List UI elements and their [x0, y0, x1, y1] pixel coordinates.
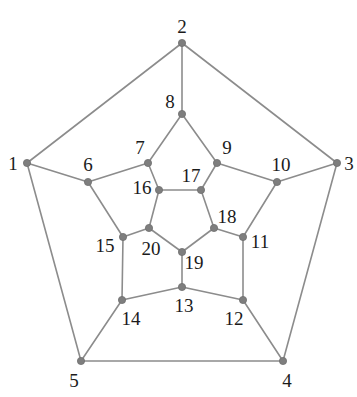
graph-vertex-5	[77, 357, 84, 364]
graph-vertex-20	[145, 224, 152, 231]
graph-vertex-9	[213, 159, 220, 166]
vertex-label-16: 16	[133, 178, 152, 197]
graph-vertex-6	[84, 178, 91, 185]
graph-vertex-4	[279, 357, 286, 364]
vertex-label-17: 17	[182, 166, 201, 185]
vertex-label-13: 13	[175, 296, 194, 315]
vertex-label-10: 10	[272, 155, 291, 174]
vertex-label-20: 20	[142, 239, 161, 258]
graph-canvas	[0, 0, 357, 397]
vertex-label-8: 8	[165, 92, 175, 111]
graph-edge-5-14	[81, 300, 122, 361]
graph-edge-1-6	[27, 163, 88, 182]
vertex-label-3: 3	[344, 154, 354, 173]
vertex-label-9: 9	[222, 138, 232, 157]
graph-edge-18-19	[182, 228, 214, 252]
graph-vertex-15	[119, 233, 126, 240]
graph-edge-3-4	[283, 163, 337, 361]
vertex-label-15: 15	[96, 236, 115, 255]
graph-vertex-13	[178, 283, 185, 290]
graph-edge-4-12	[243, 300, 283, 361]
graph-vertex-2	[178, 39, 185, 46]
vertex-label-6: 6	[83, 155, 93, 174]
graph-edge-14-15	[122, 237, 123, 300]
vertex-label-1: 1	[8, 154, 18, 173]
vertex-label-19: 19	[185, 253, 204, 272]
vertex-label-11: 11	[251, 232, 269, 251]
vertex-label-4: 4	[282, 371, 292, 390]
graph-edge-9-17	[201, 163, 217, 190]
vertex-label-5: 5	[69, 371, 79, 390]
graph-vertex-14	[118, 296, 125, 303]
graph-vertex-16	[155, 186, 162, 193]
vertex-label-18: 18	[218, 207, 237, 226]
graph-edge-8-9	[182, 114, 217, 163]
graph-vertex-7	[144, 159, 151, 166]
graph-vertex-10	[273, 178, 280, 185]
graph-edge-13-14	[122, 287, 182, 300]
graph-edge-9-10	[217, 163, 277, 182]
graph-vertex-11	[239, 233, 246, 240]
vertex-label-14: 14	[122, 309, 141, 328]
graph-edge-15-20	[123, 228, 149, 237]
graph-vertex-8	[178, 110, 185, 117]
graph-edge-15-6	[88, 182, 123, 237]
graph-edge-11-18	[214, 228, 243, 237]
graph-vertex-1	[23, 159, 30, 166]
graph-edge-5-1	[27, 163, 81, 361]
graph-vertex-3	[333, 159, 340, 166]
graph-edge-2-3	[182, 43, 337, 163]
vertex-label-7: 7	[135, 138, 145, 157]
graph-edge-17-18	[201, 190, 214, 228]
vertex-label-12: 12	[225, 309, 244, 328]
vertex-label-2: 2	[177, 17, 187, 36]
graph-vertex-12	[239, 296, 246, 303]
graph-edge-10-11	[243, 182, 277, 237]
graph-edge-1-2	[27, 43, 182, 163]
graph-edge-7-8	[148, 114, 182, 163]
graph-vertex-17	[197, 186, 204, 193]
graph-figure: 1234567891011121314151617181920	[0, 0, 357, 397]
